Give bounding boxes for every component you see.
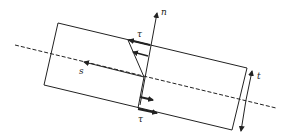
n-axis-arrow — [140, 13, 157, 105]
label-n: n — [161, 7, 167, 17]
shear-arrow-top-2 — [133, 52, 148, 56]
s-axis-arrow — [84, 62, 144, 77]
shear-arrow-top-1 — [129, 40, 150, 45]
label-tau-top: τ — [137, 29, 143, 39]
label-t: t — [257, 71, 261, 81]
thickness-arrow-up — [246, 71, 252, 100]
diagram-svg: n s t τ τ — [0, 0, 283, 140]
label-tau-bottom: τ — [138, 114, 144, 124]
diagram-canvas: n s t τ τ — [0, 0, 283, 140]
thickness-arrow-down — [241, 100, 246, 131]
shear-arrow-bottom-1 — [140, 97, 153, 100]
label-s: s — [79, 66, 84, 76]
